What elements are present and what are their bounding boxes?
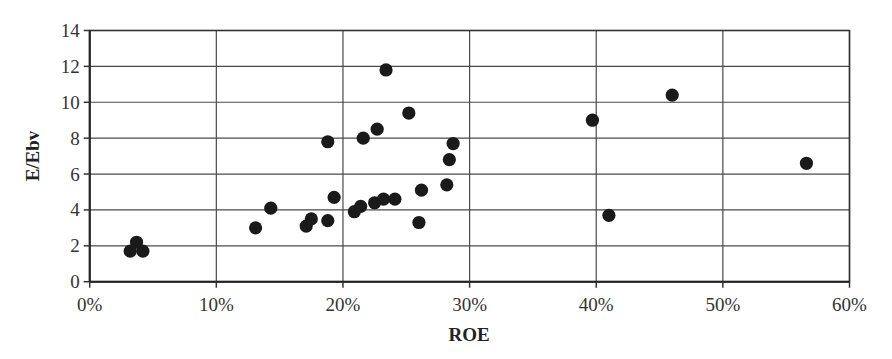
data-point	[136, 245, 149, 258]
data-point	[440, 178, 453, 191]
data-point	[412, 216, 425, 229]
data-point	[586, 114, 599, 127]
x-tick-label: 0%	[77, 294, 103, 315]
data-point	[357, 132, 370, 145]
data-point	[264, 202, 277, 215]
data-point	[377, 193, 390, 206]
x-axis-ticks: 0%10%20%30%40%50%60%	[77, 282, 867, 315]
data-point	[602, 209, 615, 222]
data-point	[388, 193, 401, 206]
y-tick-label: 6	[70, 164, 80, 185]
y-tick-label: 10	[61, 92, 80, 113]
data-point	[321, 214, 334, 227]
y-axis-title: E/Ebv	[22, 130, 43, 181]
data-point	[379, 63, 392, 76]
y-axis-ticks: 02468101214	[61, 20, 90, 292]
x-tick-label: 40%	[579, 294, 614, 315]
y-tick-label: 8	[70, 128, 80, 149]
y-tick-label: 0	[70, 271, 80, 292]
data-point	[371, 123, 384, 136]
data-point	[328, 191, 341, 204]
y-tick-label: 14	[61, 20, 81, 41]
y-tick-label: 12	[61, 56, 80, 77]
data-point	[415, 184, 428, 197]
x-tick-label: 30%	[452, 294, 487, 315]
y-tick-label: 2	[70, 235, 80, 256]
data-point	[402, 106, 415, 119]
x-tick-label: 20%	[326, 294, 361, 315]
data-point	[321, 135, 334, 148]
x-tick-label: 10%	[199, 294, 234, 315]
y-tick-label: 4	[70, 199, 80, 220]
data-point	[354, 200, 367, 213]
data-points	[124, 63, 813, 257]
x-tick-label: 60%	[832, 294, 867, 315]
data-point	[666, 88, 679, 101]
x-tick-label: 50%	[705, 294, 740, 315]
x-axis-title: ROE	[448, 324, 489, 345]
data-point	[305, 212, 318, 225]
data-point	[249, 221, 262, 234]
data-point	[800, 157, 813, 170]
scatter-chart: 02468101214 0%10%20%30%40%50%60% ROE E/E…	[0, 0, 892, 359]
data-point	[447, 137, 460, 150]
data-point	[443, 153, 456, 166]
grid-lines	[90, 31, 850, 282]
